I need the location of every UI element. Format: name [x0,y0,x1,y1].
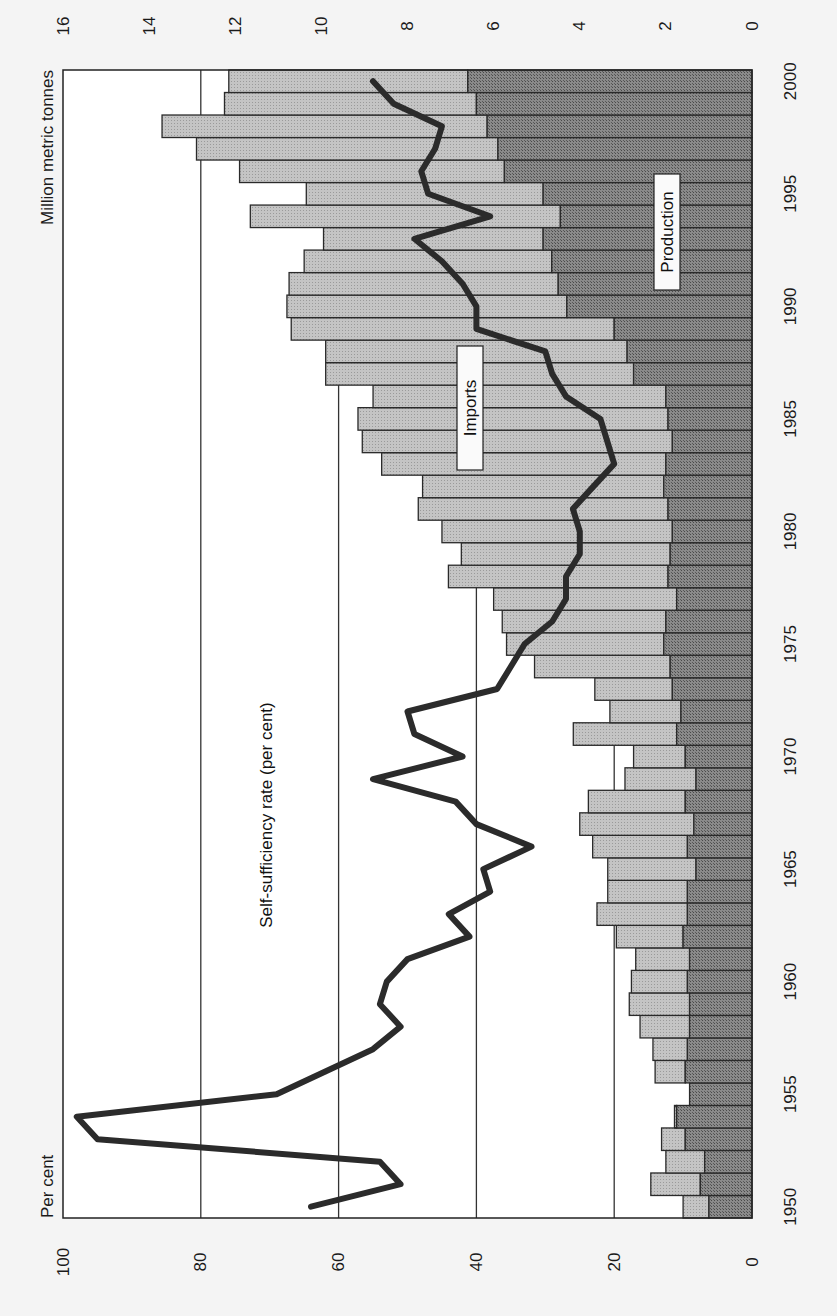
percent-tick-label: 80 [191,1253,210,1272]
tonnes-tick-label: 2 [656,21,675,30]
imports-bar [196,138,497,161]
production-bar [696,858,752,881]
production-bar [700,1173,752,1196]
production-bar [687,1038,752,1061]
year-tick-label: 1950 [781,1188,800,1226]
percent-tick-label: 100 [54,1248,73,1276]
imports-bar [595,678,673,701]
self-sufficiency-chart: Imports Production Self-sufficiency rate… [0,0,837,1316]
imports-bar [289,273,558,296]
production-bar [668,565,752,588]
imports-bar [442,520,672,543]
tonnes-tick-label: 8 [398,21,417,30]
production-bar [666,610,752,633]
line-label: Self-sufficiency rate (per cent) [257,702,276,928]
imports-bar [653,1038,687,1061]
production-bar [498,138,752,161]
production-bar [687,880,752,903]
percent-tick-label: 60 [329,1253,348,1272]
tonnes-tick-label: 12 [226,17,245,36]
imports-bar [629,993,689,1016]
year-axis-ticks: 1950195519601965197019751980198519901995… [781,62,800,1225]
production-bar [543,228,752,251]
production-bar [687,835,752,858]
production-bar [677,588,752,611]
production-bar [672,520,752,543]
percent-axis-ticks: 020406080100 [54,1248,762,1276]
production-bar [664,475,752,498]
imports-bar [610,700,681,723]
tonnes-tick-label: 10 [312,17,331,36]
production-bar [690,948,752,971]
imports-bar [655,1060,685,1083]
year-tick-label: 1965 [781,850,800,888]
production-bar [670,543,752,566]
production-bar [552,250,752,273]
imports-bar [651,1173,701,1196]
production-bar [672,430,752,453]
imports-bar [662,1128,686,1151]
production-bar [685,745,752,768]
imports-bar [588,790,685,813]
production-bar [687,903,752,926]
production-bar [681,700,752,723]
imports-bar [573,723,676,746]
production-bar [614,318,752,341]
production-bar [685,790,752,813]
production-bar [696,768,752,791]
production-bar [468,70,752,93]
production-bar [567,295,752,318]
percent-tick-label: 40 [467,1253,486,1272]
tonnes-tick-label: 4 [570,21,589,30]
production-bar [476,93,752,116]
imports-bar [631,970,687,993]
tonnes-axis-title: Million metric tonnes [38,70,57,225]
percent-tick-label: 0 [743,1257,762,1266]
imports-bar [597,903,687,926]
tonnes-tick-label: 14 [140,17,159,36]
imports-bar [229,70,468,93]
production-bar [685,1060,752,1083]
production-label: Production [654,174,680,290]
tonnes-axis-ticks: 0246810121416 [54,17,762,36]
imports-bar [580,813,694,836]
tonnes-tick-label: 0 [743,21,762,30]
production-bar [666,453,752,476]
year-tick-label: 1980 [781,513,800,551]
imports-bar [616,925,683,948]
production-bar [543,183,752,206]
production-bar [668,498,752,521]
imports-bar [373,385,666,408]
imports-label-text: Imports [461,380,480,437]
production-bar [504,160,752,183]
production-bar [690,993,752,1016]
percent-axis-title: Per cent [38,1154,57,1218]
imports-bar [634,745,686,768]
production-bar [690,1015,752,1038]
imports-bar [362,430,672,453]
production-bar [666,385,752,408]
imports-bar [593,835,688,858]
imports-bar [287,295,567,318]
imports-bar [224,93,476,116]
imports-bar [640,1015,690,1038]
production-bar [487,115,752,138]
imports-label: Imports [457,346,483,470]
imports-bar [636,948,690,971]
tonnes-tick-label: 16 [54,17,73,36]
imports-bar [291,318,614,341]
imports-bar [608,858,696,881]
production-bar [672,678,752,701]
imports-bar [502,610,666,633]
production-bar [709,1195,752,1218]
year-tick-label: 1990 [781,287,800,325]
year-tick-label: 1955 [781,1075,800,1113]
production-bar [687,970,752,993]
year-tick-label: 1970 [781,738,800,776]
year-tick-label: 1995 [781,175,800,213]
imports-bar [418,498,668,521]
imports-bar [625,768,696,791]
production-bar [694,813,752,836]
production-bar [677,723,752,746]
imports-bar [666,1150,705,1173]
